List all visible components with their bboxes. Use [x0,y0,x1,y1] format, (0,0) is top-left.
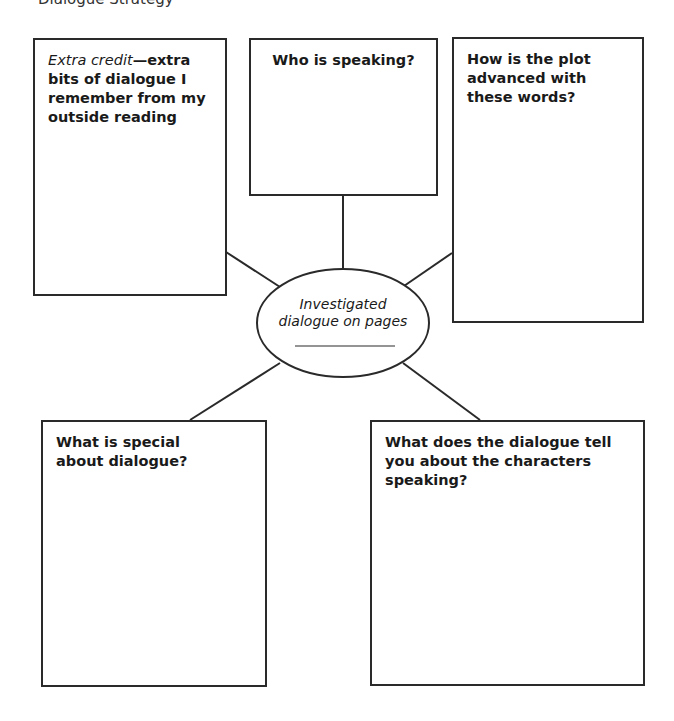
who-speaking-prompt: Who is speaking? [251,40,436,70]
special-dialogue-prompt: What is special about dialogue? [43,422,265,471]
who-speaking-box[interactable]: Who is speaking? [249,38,438,196]
characters-box[interactable]: What does the dialogue tell you about th… [370,420,645,686]
center-label-line1: Investigated [262,296,424,313]
characters-prompt: What does the dialogue tell you about th… [372,422,643,490]
plot-advanced-prompt: How is the plot advanced with these word… [454,39,642,107]
extra-credit-box[interactable]: Extra credit—extra bits of dialogue I re… [33,38,227,296]
extra-credit-prompt: Extra credit—extra bits of dialogue I re… [35,40,225,127]
special-dialogue-box[interactable]: What is special about dialogue? [41,420,267,687]
extra-credit-lead: Extra credit [48,52,133,68]
center-label: Investigated dialogue on pages [262,296,424,330]
plot-advanced-box[interactable]: How is the plot advanced with these word… [452,37,644,323]
center-label-line2: dialogue on pages [262,313,424,330]
